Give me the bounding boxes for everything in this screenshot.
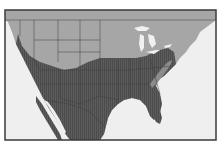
map-figure [0,0,222,144]
map-svg [0,0,222,144]
